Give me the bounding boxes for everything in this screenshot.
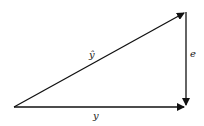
label-e: e [190,48,196,59]
label-y-hat: ŷ [88,49,95,60]
vector-triangle-diagram: ŷ e y [0,0,204,126]
label-y: y [92,110,99,121]
vector-y-hat [14,13,184,107]
